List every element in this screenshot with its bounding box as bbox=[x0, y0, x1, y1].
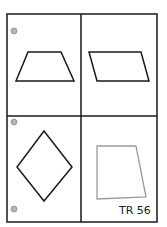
punch-hole-icon bbox=[11, 28, 17, 34]
shape-card bbox=[0, 0, 167, 227]
card-background bbox=[0, 0, 167, 227]
punch-hole-icon bbox=[11, 206, 17, 212]
punch-hole-icon bbox=[11, 119, 17, 125]
card-code-label: TR 56 bbox=[119, 205, 151, 216]
